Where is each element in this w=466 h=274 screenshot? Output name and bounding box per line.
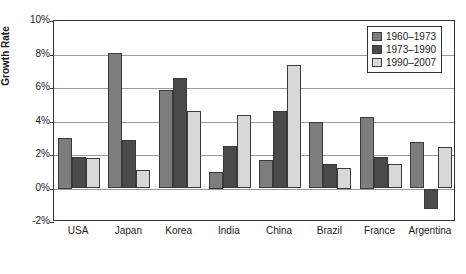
y-axis-tick-label: 6% — [10, 82, 50, 92]
legend: 1960–19731973–19901990–2007 — [367, 26, 442, 73]
bar — [108, 53, 122, 189]
bar — [424, 189, 438, 209]
x-axis-category-label: Brazil — [304, 225, 354, 237]
bar — [159, 90, 173, 189]
y-axis-tickmark — [50, 222, 54, 223]
y-axis-tick-label: -2% — [10, 216, 50, 226]
y-axis-tick-label: 8% — [10, 49, 50, 59]
bar — [410, 142, 424, 189]
bar — [86, 158, 100, 188]
bar — [237, 115, 251, 189]
bar — [259, 160, 273, 188]
y-axis-tick-label: 2% — [10, 149, 50, 159]
x-axis-category-label: China — [254, 225, 304, 237]
bar — [72, 157, 86, 189]
legend-item: 1990–2007 — [372, 56, 436, 69]
y-axis-tick-labels: 10%8%6%4%2%0%-2% — [10, 0, 50, 274]
x-axis-category-label: Argentina — [405, 225, 455, 237]
bar — [223, 146, 237, 189]
legend-item: 1973–1990 — [372, 43, 436, 56]
bar — [273, 111, 287, 189]
bar — [360, 117, 374, 188]
legend-label: 1990–2007 — [386, 57, 436, 68]
bar — [287, 65, 301, 188]
bar — [309, 122, 323, 188]
bar — [209, 172, 223, 189]
bar — [388, 164, 402, 188]
legend-swatch-icon — [372, 45, 382, 54]
legend-swatch-icon — [372, 32, 382, 41]
bar — [323, 164, 337, 188]
x-axis-category-label: Japan — [103, 225, 153, 237]
x-axis-category-labels: USAJapanKoreaIndiaChinaBrazilFranceArgen… — [53, 225, 455, 245]
legend-label: 1973–1990 — [386, 44, 436, 55]
x-axis-category-label: Korea — [154, 225, 204, 237]
y-axis-tick-label: 0% — [10, 183, 50, 193]
bar — [187, 111, 201, 188]
legend-label: 1960–1973 — [386, 31, 436, 42]
legend-item: 1960–1973 — [372, 30, 436, 43]
bar — [438, 147, 452, 188]
bar — [173, 78, 187, 189]
bar — [136, 170, 150, 188]
growth-rate-bar-chart: Growth Rate 10%8%6%4%2%0%-2% USAJapanKor… — [0, 0, 466, 274]
bar — [122, 140, 136, 189]
bar — [374, 157, 388, 189]
bar — [58, 138, 72, 188]
legend-swatch-icon — [372, 58, 382, 67]
y-axis-tick-label: 4% — [10, 116, 50, 126]
x-axis-category-label: India — [204, 225, 254, 237]
y-axis-tick-label: 10% — [10, 15, 50, 25]
bar — [337, 168, 351, 189]
x-axis-category-label: USA — [53, 225, 103, 237]
x-axis-category-label: France — [355, 225, 405, 237]
